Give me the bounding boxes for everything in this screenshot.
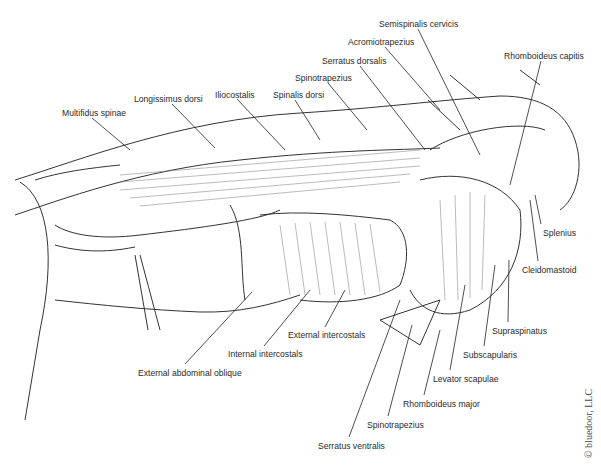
label-longissimus-dorsi: Longissimus dorsi — [134, 94, 203, 104]
label-external-intercostals: External intercostals — [288, 330, 365, 340]
label-serratus-ventralis: Serratus ventralis — [318, 441, 385, 451]
label-rhomboideus-major: Rhomboideus major — [403, 399, 480, 409]
anatomy-diagram: Multifidus spinae Longissimus dorsi Ilio… — [0, 0, 601, 466]
label-iliocostalis: Iliocostalis — [215, 90, 255, 100]
label-external-abdominal-oblique: External abdominal oblique — [138, 368, 242, 378]
label-splenius: Splenius — [543, 228, 576, 238]
label-multifidus-spinae: Multifidus spinae — [62, 108, 126, 118]
label-acromiotrapezius: Acromiotrapezius — [348, 37, 414, 47]
label-serratus-dorsalis: Serratus dorsalis — [322, 56, 386, 66]
copyright-notice: © bluedoor, LLC — [583, 389, 594, 458]
label-spinotrapezius-bottom: Spinotrapezius — [367, 420, 424, 430]
label-spinotrapezius-top: Spinotrapezius — [295, 73, 352, 83]
label-rhomboideus-capitis: Rhomboideus capitis — [504, 51, 584, 61]
label-supraspinatus: Supraspinatus — [492, 326, 547, 336]
label-internal-intercostals: Internal intercostals — [228, 349, 303, 359]
muscle-illustration — [0, 0, 601, 466]
label-levator-scapulae: Levator scapulae — [433, 374, 498, 384]
label-cleidomastoid: Cleidomastoid — [522, 265, 576, 275]
label-semispinalis-cervicis: Semispinalis cervicis — [379, 19, 458, 29]
label-subscapularis: Subscapularis — [463, 350, 517, 360]
label-spinalis-dorsi: Spinalis dorsi — [273, 90, 324, 100]
